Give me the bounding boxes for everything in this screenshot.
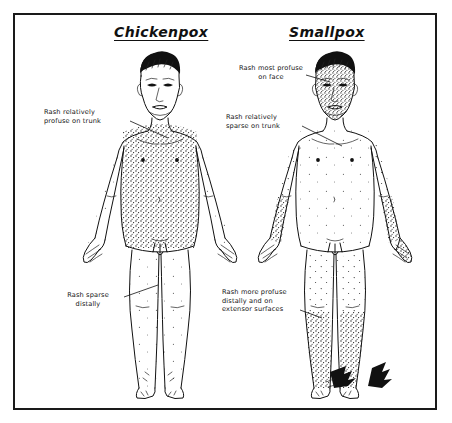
chickenpox-figure <box>83 51 237 398</box>
smallpox-left-thigh-rash <box>305 250 333 312</box>
smallpox-figure <box>258 51 412 398</box>
chickenpox-left-leg-rash <box>130 250 158 388</box>
chickenpox-trunk-rash <box>121 124 199 248</box>
smallpox-right-forearm-rash <box>381 196 400 243</box>
figure-artwork <box>0 0 452 423</box>
smallpox-right-thigh-rash <box>337 250 365 312</box>
diagram-page: Chickenpox Smallpox Rash relatively prof… <box>0 0 452 423</box>
smallpox-left-shin-rash <box>306 312 331 388</box>
chickenpox-right-leg-rash <box>162 250 190 388</box>
smallpox-head <box>312 51 357 120</box>
chickenpox-head <box>137 51 182 120</box>
smallpox-left-forearm-rash <box>270 196 289 243</box>
